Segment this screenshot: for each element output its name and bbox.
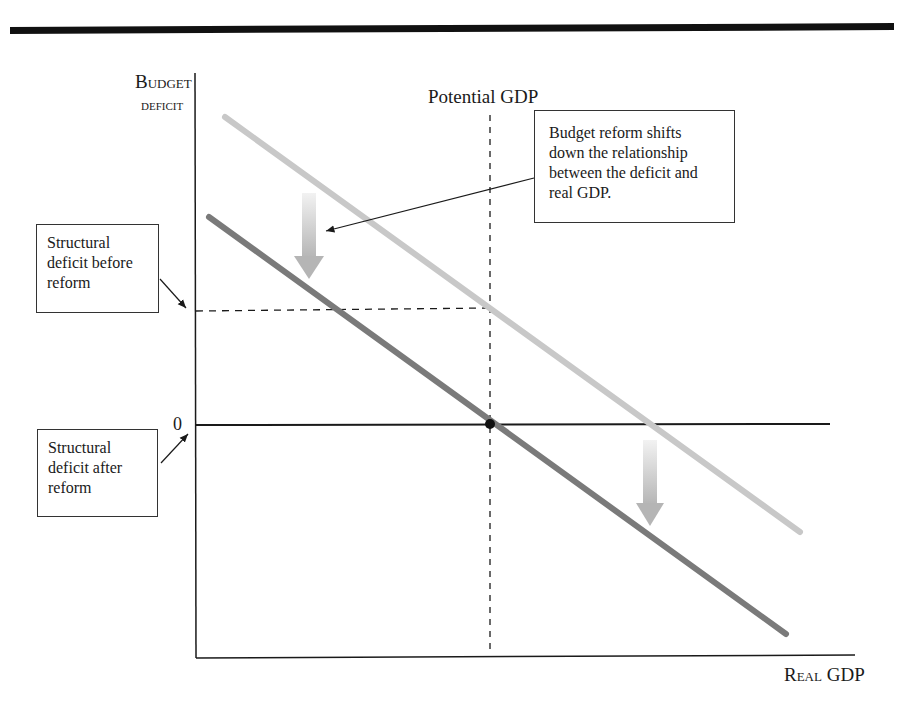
reform-callout-pointer xyxy=(326,178,534,231)
x-axis-label: Real GDP xyxy=(784,664,865,686)
potential-gdp-label: Potential GDP xyxy=(428,86,538,108)
y-axis xyxy=(195,73,196,658)
y-axis-label: Budget DEFICIT xyxy=(135,70,192,116)
before-callout-pointer xyxy=(160,279,186,308)
shift-down-arrow-right xyxy=(636,440,664,526)
y-axis-label-line1: Budget xyxy=(135,70,192,93)
y-axis-label-line2: DEFICIT xyxy=(135,93,192,116)
zero-line xyxy=(196,424,830,425)
equilibrium-point xyxy=(485,419,495,429)
x-axis xyxy=(196,655,855,658)
after-callout-pointer xyxy=(161,434,188,463)
zero-tick-label: 0 xyxy=(173,414,182,435)
reform-shift-callout: Budget reform shifts down the relationsh… xyxy=(534,110,735,223)
structural-deficit-after-callout: Structural deficit after reform xyxy=(37,429,158,517)
shift-down-arrow-left xyxy=(294,193,324,279)
structural-deficit-before-callout: Structural deficit before reform xyxy=(36,224,159,313)
